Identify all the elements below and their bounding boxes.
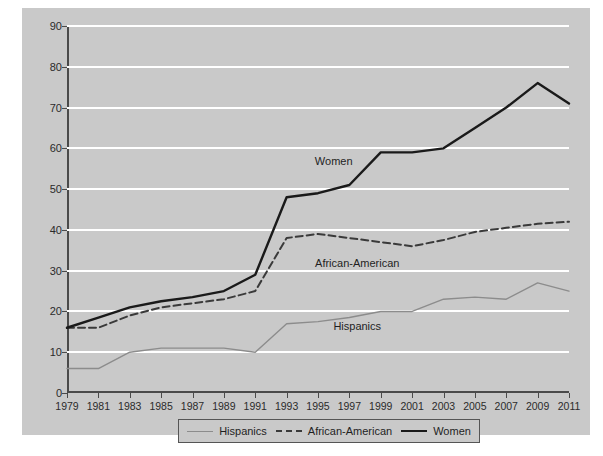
x-tick-label-1983: 1983 [118,400,141,412]
x-tick-label-1989: 1989 [212,400,235,412]
chart-legend[interactable]: Hispanics African-American Women [178,419,480,443]
x-tick-mark-1997 [349,393,350,398]
x-tick-label-2007: 2007 [495,400,518,412]
x-tick-label-2009: 2009 [526,400,549,412]
x-tick-mark-1991 [255,393,256,398]
x-tick-mark-1987 [193,393,194,398]
y-tick-label-60: 60 [50,142,62,154]
legend-swatch-hispanics-icon [187,431,213,432]
x-tick-label-2011: 2011 [558,400,581,412]
legend-swatch-african-american-icon [276,430,302,432]
y-tick-label-10: 10 [50,346,62,358]
x-tick-mark-2009 [538,393,539,398]
x-tick-mark-1995 [318,393,319,398]
y-tick-label-80: 80 [50,61,62,73]
legend-item-hispanics[interactable]: Hispanics [187,425,267,437]
x-tick-mark-1983 [130,393,131,398]
x-tick-mark-2005 [475,393,476,398]
y-tick-label-90: 90 [50,20,62,32]
x-tick-mark-2003 [444,393,445,398]
legend-label-women: Women [433,425,471,437]
legend-item-women[interactable]: Women [401,425,471,437]
inline-label-hispanics: Hispanics [333,320,381,332]
x-tick-mark-1981 [98,393,99,398]
legend-item-african-american[interactable]: African-American [276,425,392,437]
x-tick-label-1993: 1993 [275,400,298,412]
y-tick-label-50: 50 [50,183,62,195]
x-tick-mark-1989 [224,393,225,398]
x-tick-label-1981: 1981 [87,400,110,412]
x-tick-mark-1993 [287,393,288,398]
x-tick-label-2005: 2005 [463,400,486,412]
x-tick-label-1985: 1985 [149,400,172,412]
x-tick-label-1987: 1987 [181,400,204,412]
x-tick-label-1979: 1979 [55,400,78,412]
x-tick-mark-2001 [412,393,413,398]
x-axis-labels: 1979198119831985198719891991199319951997… [67,393,569,419]
inline-label-women: Women [315,155,353,167]
x-tick-label-1999: 1999 [369,400,392,412]
series-line-african-american [67,222,569,328]
series-line-women [67,83,569,328]
x-tick-label-2001: 2001 [400,400,423,412]
x-tick-mark-1985 [161,393,162,398]
y-tick-label-30: 30 [50,265,62,277]
y-axis-labels: 0102030405060708090 [22,26,62,393]
y-tick-label-70: 70 [50,102,62,114]
y-tick-label-40: 40 [50,224,62,236]
legend-swatch-women-icon [401,430,427,432]
x-tick-mark-1999 [381,393,382,398]
plot-area: WomenAfrican-AmericanHispanics [67,26,569,393]
x-tick-label-2003: 2003 [432,400,455,412]
series-line-hispanics [67,283,569,369]
legend-label-african-american: African-American [308,425,392,437]
inline-label-african-american: African-American [315,257,399,269]
x-tick-label-1997: 1997 [338,400,361,412]
x-tick-label-1991: 1991 [244,400,267,412]
x-tick-mark-1979 [67,393,68,398]
y-tick-label-20: 20 [50,305,62,317]
x-tick-mark-2011 [569,393,570,398]
chart-figure: 0102030405060708090 WomenAfrican-America… [22,8,590,435]
x-tick-mark-2007 [506,393,507,398]
series-lines [67,26,569,393]
x-tick-label-1995: 1995 [306,400,329,412]
legend-label-hispanics: Hispanics [219,425,267,437]
